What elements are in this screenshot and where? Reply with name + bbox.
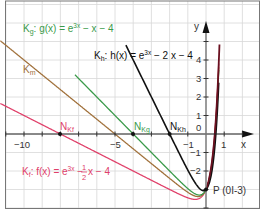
kg-label: Kg: g(x) = e3x − x − 4: [23, 22, 114, 36]
km-label: Km: [23, 64, 36, 76]
x-tick-label: −5: [110, 139, 121, 150]
svg-text:x − 4: x − 4: [88, 166, 110, 177]
curve-kh: [126, 45, 219, 190]
nkf-label: NKf: [60, 121, 74, 133]
svg-text:1: 1: [82, 163, 86, 172]
x-axis-label: x: [241, 139, 246, 150]
function-chart: x y 0 −10 −5 −1 1 4 3 2 1 −1 −2 Kg: g(x)…: [0, 0, 263, 215]
p-point: [204, 188, 208, 192]
kh-label: Kh: h(x) = e3x − 2 x − 4: [94, 49, 193, 62]
svg-text:2: 2: [82, 173, 86, 182]
curve-kf: [0, 63, 218, 199]
nkg-point: [131, 132, 135, 136]
nkh-point: [168, 132, 172, 136]
y-tick-label: −2: [190, 165, 201, 176]
y-tick-label: −1: [190, 147, 201, 158]
x-axis-arrow-icon: [242, 131, 254, 138]
y-axis-label: y: [194, 21, 199, 32]
y-tick-label: 3: [196, 73, 201, 84]
nkg-label: NKg: [134, 121, 150, 134]
svg-text:Kf: f(x) = e3x −: Kf: f(x) = e3x −: [22, 165, 83, 178]
p-label: P (0I-3): [213, 185, 246, 196]
nkf-point: [58, 132, 62, 136]
origin-label: 0: [196, 122, 201, 133]
nkh-label: NKh: [170, 121, 186, 133]
y-tick-label: 1: [196, 110, 201, 121]
y-tick-label: 2: [196, 91, 201, 102]
x-tick-label: 1: [221, 139, 226, 150]
y-tick-label: 4: [196, 54, 201, 65]
x-tick-label: −10: [14, 139, 30, 150]
